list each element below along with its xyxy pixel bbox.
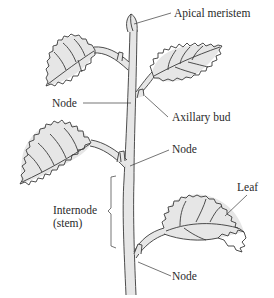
lower-right-leaf — [134, 195, 246, 258]
plant-shoot-diagram: Apical meristem Node Axillary bud Node L… — [0, 0, 274, 298]
label-node-lower: Node — [172, 270, 197, 283]
label-axillary-bud: Axillary bud — [172, 111, 230, 124]
label-leaf: Leaf — [237, 181, 258, 194]
label-internode: Internode — [53, 204, 97, 217]
leader-apical-meristem — [134, 13, 171, 24]
leader-node-lower — [138, 262, 171, 276]
middle-left-leaf — [20, 120, 127, 185]
label-node-upper: Node — [52, 97, 77, 110]
apical-bud — [127, 14, 138, 32]
upper-left-leaf — [46, 34, 129, 86]
leader-leaf — [225, 195, 247, 216]
leader-node-middle — [130, 150, 169, 166]
internode-bracket — [108, 176, 116, 248]
leader-axillary-bud — [145, 96, 168, 117]
plant-illustration — [0, 0, 274, 298]
upper-right-leaf — [136, 43, 222, 98]
label-apical-meristem: Apical meristem — [174, 7, 250, 20]
label-node-middle: Node — [172, 143, 197, 156]
label-internode-stem: (stem) — [53, 217, 82, 230]
